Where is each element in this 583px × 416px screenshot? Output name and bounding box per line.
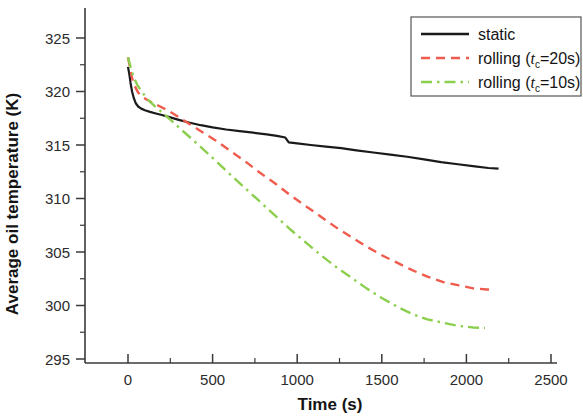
y-tick-label: 320	[45, 83, 70, 100]
legend-label-static: static	[478, 26, 515, 43]
chart-legend: staticrolling (tc=20s)rolling (tc=10s)	[411, 17, 581, 96]
y-tick-label: 315	[45, 137, 70, 154]
x-axis-title: Time (s)	[298, 395, 363, 414]
y-tick-label: 295	[45, 351, 70, 368]
x-tick-label: 0	[124, 371, 132, 388]
y-tick-label: 305	[45, 244, 70, 261]
x-tick-label: 1000	[281, 371, 314, 388]
y-tick-label: 310	[45, 190, 70, 207]
x-tick-label: 1500	[365, 371, 398, 388]
y-tick-label: 300	[45, 297, 70, 314]
chart-figure: 295300305310315320325 050010001500200025…	[0, 0, 583, 416]
x-tick-label: 500	[200, 371, 225, 388]
y-axis-title: Average oil temperature (K)	[3, 93, 22, 315]
x-tick-label: 2500	[534, 371, 567, 388]
y-tick-label: 325	[45, 30, 70, 47]
x-tick-label: 2000	[450, 371, 483, 388]
chart-svg: 295300305310315320325 050010001500200025…	[0, 0, 583, 416]
